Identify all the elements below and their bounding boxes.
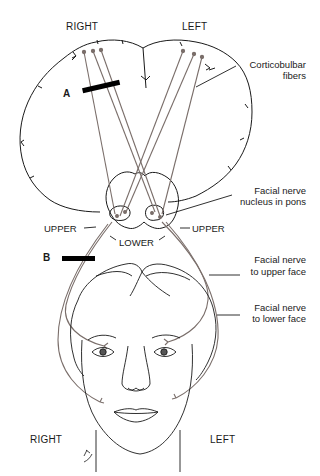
callout-corticobulbar-2: fibers (283, 70, 306, 81)
brain-outline (20, 40, 252, 212)
label-left-top: LEFT (182, 21, 207, 32)
lesion-bar-b (62, 256, 95, 261)
label-upper-left: UPPER (192, 223, 225, 234)
label-lower: LOWER (119, 237, 154, 248)
callout-nucleus-1: Facial nerve (254, 185, 306, 196)
callout-corticobulbar-1: Corticobulbar (250, 59, 307, 70)
diagram-artwork (0, 0, 320, 476)
lesion-label-b: B (43, 252, 50, 263)
facial-nerve-diagram: RIGHT LEFT A B Corticobulbar fibers Faci… (0, 0, 320, 476)
callout-lower-face-2: to lower face (252, 313, 306, 324)
callout-upper-face-1: Facial nerve (254, 254, 306, 265)
lesion-label-a: A (63, 88, 70, 99)
artist-signature (84, 450, 92, 462)
face (71, 263, 216, 472)
facial-nerves (58, 222, 218, 403)
callout-lower-face-1: Facial nerve (254, 302, 306, 313)
label-left-bottom: LEFT (210, 434, 235, 445)
corticobulbar-fibers (82, 48, 203, 218)
label-right-top: RIGHT (66, 21, 98, 32)
callout-upper-face-2: to upper face (251, 266, 306, 277)
label-right-bottom: RIGHT (30, 434, 62, 445)
callout-nucleus-2: nucleus in pons (240, 196, 306, 207)
label-upper-right: UPPER (44, 223, 77, 234)
